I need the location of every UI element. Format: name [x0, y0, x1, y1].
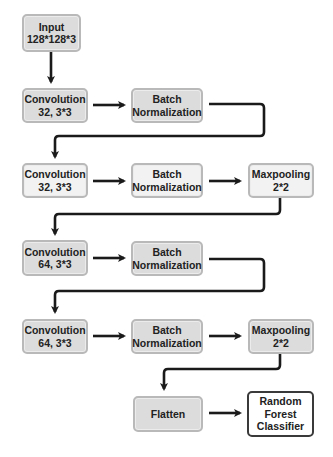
classifier-label-2: Forest	[264, 408, 296, 421]
bn2-node: Batch Normalization	[131, 163, 203, 198]
conv1-params: 32, 3*3	[38, 106, 71, 119]
conv2-params: 32, 3*3	[38, 181, 71, 194]
pool1-size: 2*2	[273, 181, 289, 194]
arrow-pool2-flatten	[164, 354, 280, 389]
conv1-label: Convolution	[24, 93, 85, 106]
flatten-label: Flatten	[151, 408, 185, 421]
arrow-pool1-conv3	[55, 198, 280, 234]
connectors	[0, 0, 333, 457]
conv3-label: Convolution	[24, 246, 85, 259]
input-label: Input	[39, 21, 65, 34]
conv3-params: 64, 3*3	[38, 258, 71, 271]
bn3-node: Batch Normalization	[131, 241, 203, 276]
flatten-node: Flatten	[133, 396, 203, 432]
bn4-label-2: Normalization	[132, 337, 201, 350]
bn3-label-1: Batch	[152, 246, 181, 259]
bn4-node: Batch Normalization	[131, 319, 203, 354]
pool1-label: Maxpooling	[252, 168, 310, 181]
bn4-label-1: Batch	[152, 324, 181, 337]
conv2-label: Convolution	[24, 168, 85, 181]
bn3-label-2: Normalization	[132, 259, 201, 272]
pool1-node: Maxpooling 2*2	[248, 163, 314, 198]
conv2-node: Convolution 32, 3*3	[22, 163, 88, 198]
conv4-node: Convolution 64, 3*3	[22, 319, 88, 354]
conv1-node: Convolution 32, 3*3	[22, 88, 88, 123]
bn1-label-2: Normalization	[132, 106, 201, 119]
bn2-label-1: Batch	[152, 168, 181, 181]
input-shape: 128*128*3	[27, 33, 76, 46]
conv4-label: Convolution	[24, 324, 85, 337]
bn1-label-1: Batch	[152, 93, 181, 106]
classifier-label-1: Random	[260, 395, 302, 408]
input-node: Input 128*128*3	[22, 14, 81, 52]
conv3-node: Convolution 64, 3*3	[22, 240, 88, 276]
pool2-node: Maxpooling 2*2	[248, 319, 314, 354]
bn1-node: Batch Normalization	[131, 88, 203, 123]
pool2-label: Maxpooling	[252, 324, 310, 337]
bn2-label-2: Normalization	[132, 181, 201, 194]
pool2-size: 2*2	[273, 337, 289, 350]
conv4-params: 64, 3*3	[38, 337, 71, 350]
classifier-node: Random Forest Classifier	[247, 391, 314, 437]
classifier-label-3: Classifier	[257, 420, 304, 433]
